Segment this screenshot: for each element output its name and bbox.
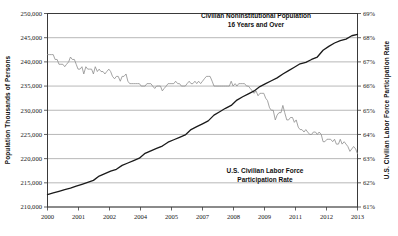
left-axis-tick-label: 210,000	[21, 203, 43, 210]
x-axis-tick-label: 2005	[165, 213, 179, 220]
x-axis-tick-label: 2001	[72, 213, 85, 220]
right-axis-tick-label: 68%	[363, 34, 376, 41]
population-annotation-line-1: Civilian Noninstitutional Population	[201, 12, 311, 20]
population-annotation-line-2: 16 Years and Over	[228, 21, 285, 28]
x-axis-tick-label: 2011	[289, 213, 302, 220]
left-axis-tick-label: 230,000	[21, 107, 43, 114]
left-axis-tick-label: 235,000	[21, 82, 43, 89]
chart-container: 250,000245,000240,000235,000230,000225,0…	[0, 0, 398, 236]
x-axis-tick-label: 2002	[103, 213, 116, 220]
x-axis-tick-label: 2007	[196, 213, 210, 220]
right-axis-tick-label: 63%	[363, 155, 376, 162]
x-axis-tick-label: 2012	[320, 213, 333, 220]
left-axis-title: Population Thousands of Persons	[4, 56, 12, 165]
x-axis-tick-label: 2008	[227, 213, 241, 220]
right-axis-tick-label: 64%	[363, 131, 376, 138]
left-axis-tick-label: 250,000	[21, 10, 43, 17]
x-axis-tick-label: 2004	[134, 213, 148, 220]
right-axis-tick-label: 65%	[363, 107, 376, 114]
left-axis-tick-label: 245,000	[21, 34, 43, 41]
right-axis-tick-label: 67%	[363, 58, 376, 65]
right-axis-tick-label: 62%	[363, 179, 376, 186]
x-axis-tick-label: 2009	[258, 213, 272, 220]
x-axis-tick-label: 2000	[41, 213, 55, 220]
labor-force-participation-chart: 250,000245,000240,000235,000230,000225,0…	[0, 0, 398, 236]
left-axis-tick-label: 240,000	[21, 58, 43, 65]
participation-annotation-line-2: Participation Rate	[237, 176, 293, 184]
participation-annotation-line-1: U.S. Civilian Labor Force	[227, 167, 304, 174]
left-axis-tick-label: 225,000	[21, 131, 43, 138]
participation-series-annotation: U.S. Civilian Labor Force Participation …	[227, 167, 304, 184]
right-axis-tick-label: 69%	[363, 10, 376, 17]
left-axis-tick-label: 215,000	[21, 179, 43, 186]
right-axis-tick-labels: 69%68%67%66%65%64%63%62%61%	[363, 10, 376, 211]
x-axis-tick-label: 2013	[351, 213, 365, 220]
right-axis-tick-label: 61%	[363, 203, 376, 210]
left-axis-tick-labels: 250,000245,000240,000235,000230,000225,0…	[21, 10, 43, 211]
right-axis-title: U.S. Civilian Labor Force Participation …	[383, 41, 391, 180]
left-axis-tick-label: 220,000	[21, 155, 43, 162]
chart-background	[0, 0, 398, 236]
right-axis-tick-label: 66%	[363, 82, 376, 89]
